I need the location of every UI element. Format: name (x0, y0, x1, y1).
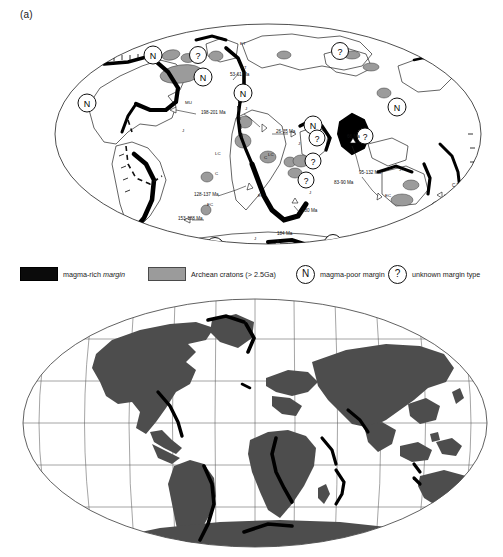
svg-text:N: N (150, 51, 157, 61)
code-label: C (294, 215, 297, 220)
code-label: C (215, 171, 218, 176)
world-map-svg (0, 292, 503, 554)
legend-label-magma-rich: magma-rich margin (63, 270, 125, 279)
age-label: 66 Ma (347, 134, 360, 139)
svg-text:?: ? (315, 134, 320, 144)
age-label: 53-61 Ma (230, 72, 250, 77)
legend-label-archean-cratons: Archean cratons (> 2.5Ga) (191, 270, 276, 279)
svg-text:N: N (200, 73, 207, 83)
pangea-reconstruction-map: N N N N N N ? ? ? ? ? ? ? (0, 14, 503, 254)
code-label: EC (258, 193, 264, 198)
legend-label-unknown: unknown margin type (412, 270, 480, 279)
unknown-margin-marker-icon: ? (388, 265, 407, 284)
magma-rich-swatch (20, 267, 58, 281)
pangea-map-svg: N N N N N N ? ? ? ? ? ? ? (0, 14, 503, 254)
code-label: J (245, 106, 247, 111)
figure-container: (a) (0, 0, 503, 557)
age-label: 180 Ma (302, 208, 318, 213)
svg-text:?: ? (195, 51, 200, 61)
map-frame-ellipse (55, 24, 481, 244)
legend-label-magma-poor: magma-poor margin (320, 270, 385, 279)
age-label: 83-90 Ma (334, 180, 354, 185)
code-label: J (309, 190, 311, 195)
svg-text:?: ? (363, 132, 368, 142)
code-label: C (264, 155, 267, 160)
legend: magma-rich margin Archean cratons (> 2.5… (0, 262, 503, 288)
magma-poor-marker-icon: N (296, 265, 315, 284)
age-label: 198-201 Ma (201, 110, 226, 115)
code-label: J (182, 128, 184, 133)
age-label: 26-35 Ma (276, 129, 296, 134)
age-label: 128-137 Ma (194, 192, 219, 197)
code-label: EC (207, 202, 213, 207)
code-label: J? (399, 167, 404, 172)
archean-craton-swatch (148, 267, 186, 281)
svg-text:?: ? (435, 206, 440, 216)
code-label: ET? (458, 206, 467, 211)
age-label: 153-188 Ma (178, 216, 203, 221)
code-label: EC (385, 193, 391, 198)
code-label: ET (241, 65, 247, 70)
legend-item-magma-poor: N magma-poor margin (296, 262, 385, 286)
age-label: -125 Ma (453, 190, 470, 195)
legend-item-unknown: ? unknown margin type (388, 262, 480, 286)
age-label: 95-132 Ma (359, 170, 381, 175)
svg-text:N: N (240, 89, 247, 99)
svg-text:?: ? (304, 176, 309, 186)
svg-text:?: ? (337, 47, 342, 57)
svg-text:N: N (84, 99, 91, 109)
svg-text:?: ? (330, 239, 335, 249)
code-label: ET (240, 41, 246, 46)
code-label: LC (268, 152, 274, 157)
age-label: 184 Ma (277, 231, 293, 236)
legend-item-magma-rich: magma-rich margin (20, 262, 125, 286)
svg-text:?: ? (212, 242, 217, 252)
code-label: LC (215, 151, 221, 156)
code-label: J (254, 236, 256, 241)
present-day-world-map (0, 292, 503, 554)
code-label: J (298, 141, 300, 146)
svg-text:N: N (394, 103, 401, 113)
code-label: MU (185, 100, 192, 105)
svg-text:N: N (310, 121, 317, 131)
svg-text:?: ? (311, 157, 316, 167)
legend-item-archean-cratons: Archean cratons (> 2.5Ga) (148, 262, 276, 286)
